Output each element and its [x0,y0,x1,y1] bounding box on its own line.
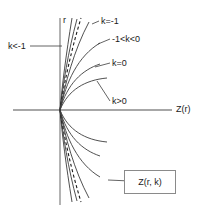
curve-label-k-equals-zero: k=0 [112,59,127,68]
curve-6 [60,78,107,110]
conic-sag-figure: r Z(r) k<-1 k=-1 -1<k<0 k=0 k>0 Z(r, k) [0,0,203,210]
leader-line-1 [92,21,99,24]
curve-label-k-greater-than-zero: k>0 [112,97,127,106]
boxed-function-label-text: Z(r, k) [138,177,162,187]
curve-label-k-between-minus-one-and-zero: -1<k<0 [112,35,140,44]
x-axis-label: Z(r) [176,105,191,114]
curve-label-k-less-than-minus-one: k<-1 [8,42,26,51]
boxed-function-label: Z(r, k) [124,170,176,194]
curve-13 [60,110,107,142]
y-axis-label: r [63,16,66,25]
leader-line-4 [97,81,110,101]
curve-label-k-equals-minus-one: k=-1 [101,17,119,26]
leader-line-2 [98,39,110,44]
